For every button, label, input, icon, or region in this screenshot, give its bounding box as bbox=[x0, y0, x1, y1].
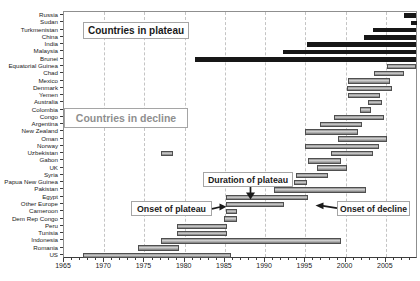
x-axis-minor-tick bbox=[192, 258, 193, 260]
plateau-bar bbox=[283, 50, 417, 55]
decline-bar bbox=[161, 151, 174, 156]
x-axis-minor-tick bbox=[393, 258, 394, 260]
country-label: Syria bbox=[0, 171, 58, 178]
x-axis-minor-tick bbox=[208, 258, 209, 260]
country-label: Indonesia bbox=[0, 236, 58, 243]
country-label: Romania bbox=[0, 243, 58, 250]
y-axis-tick bbox=[60, 181, 63, 182]
country-label: Brunei bbox=[0, 55, 58, 62]
country-label: New Zealand bbox=[0, 127, 58, 134]
y-axis-tick bbox=[60, 123, 63, 124]
decline-bar bbox=[177, 231, 228, 236]
y-axis-tick bbox=[60, 21, 63, 22]
decline-bar bbox=[368, 100, 382, 105]
x-axis-minor-tick bbox=[127, 258, 128, 260]
y-axis-tick bbox=[60, 72, 63, 73]
duration-of-plateau-label: Duration of plateau bbox=[203, 172, 293, 187]
y-axis-tick bbox=[60, 36, 63, 37]
country-label: Oman bbox=[0, 135, 58, 142]
x-axis-minor-tick bbox=[79, 258, 80, 260]
y-axis-tick bbox=[60, 94, 63, 95]
x-axis-minor-tick bbox=[272, 258, 273, 260]
country-label: Pakistan bbox=[0, 185, 58, 192]
x-axis-tick-label: 1985 bbox=[207, 262, 241, 269]
y-axis-tick bbox=[60, 138, 63, 139]
x-axis-minor-tick bbox=[320, 258, 321, 260]
plateau-bar bbox=[364, 35, 416, 40]
country-label: Dem Rep Congo bbox=[0, 214, 58, 221]
plateau-bar bbox=[195, 57, 416, 62]
decline-bar bbox=[387, 64, 416, 69]
decline-bar bbox=[348, 93, 380, 98]
x-axis-minor-tick bbox=[240, 258, 241, 260]
x-axis-minor-tick bbox=[176, 258, 177, 260]
gridline bbox=[104, 12, 105, 257]
decline-bar bbox=[226, 202, 285, 207]
country-label: Equatorial Guinea bbox=[0, 62, 58, 69]
x-axis-minor-tick bbox=[200, 258, 201, 260]
x-axis-minor-tick bbox=[329, 258, 330, 260]
x-axis-minor-tick bbox=[401, 258, 402, 260]
plateau-bar bbox=[307, 42, 416, 47]
decline-bar bbox=[274, 187, 366, 192]
x-axis-minor-tick bbox=[152, 258, 153, 260]
x-axis-minor-tick bbox=[369, 258, 370, 260]
x-axis-minor-tick bbox=[216, 258, 217, 260]
country-label: Gabon bbox=[0, 156, 58, 163]
x-axis-minor-tick bbox=[111, 258, 112, 260]
country-label: Mexico bbox=[0, 76, 58, 83]
x-axis-minor-tick bbox=[353, 258, 354, 260]
x-axis-minor-tick bbox=[256, 258, 257, 260]
y-axis-tick bbox=[60, 80, 63, 81]
y-axis-tick bbox=[60, 254, 63, 255]
decline-bar bbox=[374, 71, 405, 76]
y-axis-tick bbox=[60, 167, 63, 168]
y-axis-tick bbox=[60, 58, 63, 59]
x-axis-tick-label: 2000 bbox=[328, 262, 362, 269]
x-axis-tick-label: 1980 bbox=[167, 262, 201, 269]
x-axis-minor-tick bbox=[87, 258, 88, 260]
decline-bar bbox=[334, 115, 385, 120]
country-label: UK bbox=[0, 164, 58, 171]
plateau-bar bbox=[373, 28, 416, 33]
x-axis-minor-tick bbox=[361, 258, 362, 260]
decline-bar bbox=[308, 158, 341, 163]
x-axis-tick-label: 1975 bbox=[126, 262, 160, 269]
y-axis-tick bbox=[60, 225, 63, 226]
countries-in-plateau-label: Countries in plateau bbox=[83, 22, 189, 39]
country-label: Norway bbox=[0, 142, 58, 149]
y-axis-tick bbox=[60, 152, 63, 153]
x-axis-tick-label: 1970 bbox=[86, 262, 120, 269]
country-label: Uzbekistan bbox=[0, 149, 58, 156]
country-label: Peru bbox=[0, 222, 58, 229]
x-axis-minor-tick bbox=[280, 258, 281, 260]
x-axis-minor-tick bbox=[168, 258, 169, 260]
y-axis-tick bbox=[60, 232, 63, 233]
plateau-bar bbox=[404, 13, 417, 18]
onset-of-plateau-label: Onset of plateau bbox=[131, 201, 212, 216]
decline-bar bbox=[305, 129, 358, 134]
decline-bar bbox=[177, 224, 227, 229]
plot-area bbox=[63, 11, 417, 258]
country-label: Malaysia bbox=[0, 47, 58, 54]
country-label: Russia bbox=[0, 11, 58, 18]
y-axis-tick bbox=[60, 174, 63, 175]
plateau-bar bbox=[411, 21, 417, 26]
y-axis-tick bbox=[60, 101, 63, 102]
decline-bar bbox=[294, 180, 307, 185]
y-axis-tick bbox=[60, 239, 63, 240]
country-label: Other Europe bbox=[0, 200, 58, 207]
decline-bar bbox=[348, 78, 390, 83]
x-axis-minor-tick bbox=[409, 258, 410, 260]
y-axis-tick bbox=[60, 65, 63, 66]
decline-bar bbox=[320, 122, 362, 127]
x-axis-minor-tick bbox=[248, 258, 249, 260]
y-axis-tick bbox=[60, 14, 63, 15]
y-axis-tick bbox=[60, 87, 63, 88]
x-axis-tick-label: 1995 bbox=[287, 262, 321, 269]
y-axis-tick bbox=[60, 109, 63, 110]
x-axis-tick-label: 1965 bbox=[46, 262, 80, 269]
onset-of-decline-label: Onset of decline bbox=[337, 201, 410, 216]
y-axis-tick bbox=[60, 188, 63, 189]
country-label: Papua New Guinea bbox=[0, 178, 58, 185]
